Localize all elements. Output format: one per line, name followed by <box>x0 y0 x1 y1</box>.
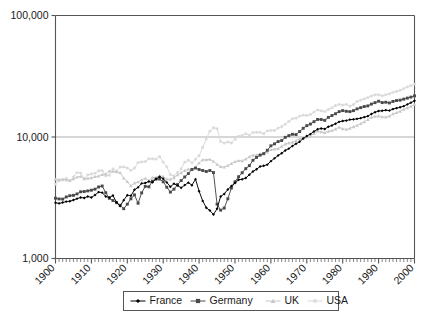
data-point-marker <box>284 136 287 139</box>
data-point-marker <box>223 207 226 210</box>
data-point-marker <box>137 202 140 205</box>
data-point-marker <box>269 144 272 147</box>
data-point-marker <box>244 167 247 170</box>
data-point-marker <box>173 188 176 191</box>
data-point-marker <box>196 299 200 303</box>
data-point-marker <box>327 116 330 119</box>
chart-container: 100,00010,0001,000 190019101920193019401… <box>0 0 433 327</box>
chart-legend[interactable]: FranceGermanyUKUSA <box>124 292 349 311</box>
data-point-marker <box>338 110 341 113</box>
data-point-marker <box>101 185 104 188</box>
data-point-marker <box>226 197 229 200</box>
data-point-marker <box>302 127 305 130</box>
data-point-marker <box>330 114 333 117</box>
line-chart: 100,00010,0001,000 190019101920193019401… <box>0 0 433 327</box>
data-point-marker <box>370 103 373 106</box>
data-point-marker <box>183 176 186 179</box>
data-point-marker <box>395 99 398 102</box>
data-point-marker <box>97 186 100 189</box>
data-point-marker <box>259 154 262 157</box>
data-point-marker <box>413 94 416 97</box>
legend-label: UK <box>285 294 300 306</box>
data-point-marker <box>374 101 377 104</box>
data-point-marker <box>323 119 326 122</box>
data-point-marker <box>165 186 168 189</box>
data-point-marker <box>377 100 380 103</box>
data-point-marker <box>295 133 298 136</box>
data-point-marker <box>359 106 362 109</box>
y-axis-tick-label: 1,000 <box>22 252 48 264</box>
data-point-marker <box>287 134 290 137</box>
y-axis-tick-label: 10,000 <box>16 131 48 143</box>
data-point-marker <box>313 120 316 123</box>
data-point-marker <box>111 199 114 202</box>
data-point-marker <box>388 102 391 105</box>
data-point-marker <box>345 110 348 113</box>
data-point-marker <box>366 104 369 107</box>
data-point-marker <box>61 198 64 201</box>
data-point-marker <box>402 98 405 101</box>
data-point-marker <box>316 118 319 121</box>
data-point-marker <box>352 109 355 112</box>
data-point-marker <box>298 130 301 133</box>
data-point-marker <box>212 171 215 174</box>
data-point-marker <box>356 107 359 110</box>
data-point-marker <box>248 164 251 167</box>
data-point-marker <box>406 97 409 100</box>
legend-label: USA <box>327 294 349 306</box>
data-point-marker <box>409 96 412 99</box>
data-point-marker <box>94 188 97 191</box>
data-point-marker <box>72 194 75 197</box>
data-point-marker <box>201 169 204 172</box>
data-point-marker <box>129 197 132 200</box>
data-point-marker <box>252 159 255 162</box>
data-point-marker <box>58 197 61 200</box>
data-point-marker <box>126 203 129 206</box>
data-point-marker <box>180 179 183 182</box>
data-point-marker <box>133 193 136 196</box>
data-point-marker <box>381 101 384 104</box>
data-point-marker <box>262 152 265 155</box>
data-point-marker <box>162 180 165 183</box>
data-point-marker <box>169 191 172 194</box>
data-point-marker <box>341 109 344 112</box>
data-point-marker <box>334 112 337 115</box>
data-point-marker <box>399 99 402 102</box>
data-point-marker <box>280 139 283 142</box>
data-point-marker <box>147 185 150 188</box>
data-point-marker <box>198 168 201 171</box>
data-point-marker <box>104 191 107 194</box>
data-point-marker <box>140 191 143 194</box>
data-point-marker <box>291 133 294 136</box>
data-point-marker <box>83 190 86 193</box>
data-point-marker <box>309 123 312 126</box>
data-point-marker <box>187 172 190 175</box>
data-point-marker <box>348 110 351 113</box>
data-point-marker <box>277 140 280 143</box>
data-point-marker <box>384 101 387 104</box>
data-point-marker <box>194 167 197 170</box>
data-point-marker <box>68 194 71 197</box>
data-point-marker <box>208 169 211 172</box>
data-point-marker <box>392 100 395 103</box>
data-point-marker <box>65 196 68 199</box>
data-point-marker <box>266 149 269 152</box>
data-point-marker <box>241 171 244 174</box>
data-point-marker <box>122 207 125 210</box>
data-point-marker <box>273 142 276 145</box>
data-point-marker <box>86 189 89 192</box>
data-point-marker <box>255 156 258 159</box>
legend-label: France <box>150 294 183 306</box>
data-point-marker <box>363 105 366 108</box>
data-point-marker <box>320 118 323 121</box>
data-point-marker <box>79 190 82 193</box>
data-point-marker <box>205 170 208 173</box>
y-axis-tick-label: 100,000 <box>11 9 49 21</box>
data-point-marker <box>76 192 79 195</box>
data-point-marker <box>237 175 240 178</box>
data-point-marker <box>190 168 193 171</box>
data-point-marker <box>54 197 57 200</box>
data-point-marker <box>144 185 147 188</box>
data-point-marker <box>219 209 222 212</box>
data-point-marker <box>305 124 308 127</box>
